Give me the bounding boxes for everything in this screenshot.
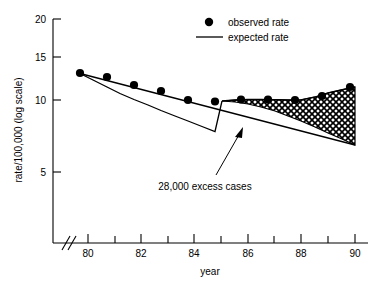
data-point: [157, 87, 165, 95]
x-tick-label-80: 80: [82, 248, 94, 259]
data-point: [346, 83, 354, 91]
y-axis: 20 15 10 5 rate/100,000 (log scale): [13, 14, 61, 243]
data-point: [318, 92, 326, 100]
chart-figure: 20 15 10 5 rate/100,000 (log scale): [0, 0, 377, 289]
data-point: [130, 81, 138, 89]
y-tick-label-5: 5: [40, 167, 46, 178]
legend-label-observed-rate: observed rate: [228, 17, 290, 28]
data-point: [184, 96, 192, 104]
data-point: [291, 96, 299, 104]
x-axis: 80 82 84 86 88 90 year: [53, 234, 368, 277]
y-axis-title: rate/100,000 (log scale): [13, 77, 24, 182]
excess-cases-line-chart: 20 15 10 5 rate/100,000 (log scale): [0, 0, 377, 289]
x-tick-label-86: 86: [242, 248, 254, 259]
legend-marker-filled-circle: [205, 18, 213, 26]
data-point: [211, 97, 219, 105]
legend-item-observed-rate: observed rate: [205, 17, 290, 28]
annotation-label: 28,000 excess cases: [158, 181, 251, 192]
annotation-arrow-head: [235, 127, 243, 138]
data-point: [237, 95, 245, 103]
y-tick-label-20: 20: [35, 14, 47, 25]
chart-legend: observed rate expected rate: [196, 17, 290, 43]
data-point: [103, 73, 111, 81]
y-tick-label-15: 15: [35, 52, 47, 63]
x-tick-label-88: 88: [295, 248, 307, 259]
x-tick-label-90: 90: [349, 248, 361, 259]
data-point: [264, 95, 272, 103]
legend-label-expected-rate: expected rate: [228, 32, 289, 43]
x-axis-title: year: [200, 266, 220, 277]
legend-item-expected-rate: expected rate: [196, 32, 289, 43]
annotation-arrow-line: [216, 133, 240, 175]
excess-cases-annotation: 28,000 excess cases: [158, 127, 251, 192]
x-tick-label-82: 82: [135, 248, 147, 259]
data-point: [76, 69, 84, 77]
y-tick-label-10: 10: [35, 95, 47, 106]
x-tick-label-84: 84: [188, 248, 200, 259]
